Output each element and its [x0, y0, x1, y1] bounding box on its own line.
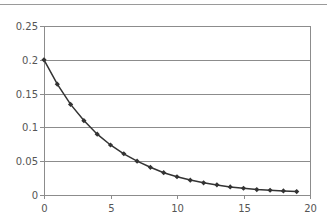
y-tick-label: 0.15	[16, 89, 38, 100]
data-point-marker	[281, 188, 286, 193]
data-point-marker	[254, 187, 259, 192]
x-tick-label: 5	[108, 203, 114, 214]
data-point-marker	[294, 189, 299, 194]
series-line	[44, 60, 297, 192]
gridlines	[44, 27, 310, 162]
data-point-marker	[148, 165, 153, 170]
axes	[44, 26, 311, 196]
y-tick-label: 0.05	[16, 156, 38, 167]
data-point-marker	[228, 184, 233, 189]
x-tick-label: 10	[171, 203, 184, 214]
x-axis-tick-labels: 05101520	[41, 195, 317, 214]
x-tick-label: 20	[304, 203, 317, 214]
data-point-marker	[214, 182, 219, 187]
data-point-marker	[188, 178, 193, 183]
line-chart: 00.050.10.150.20.25 05101520	[0, 0, 327, 222]
y-tick-label: 0.1	[22, 122, 38, 133]
x-tick-label: 0	[41, 203, 47, 214]
y-tick-label: 0.25	[16, 21, 38, 32]
data-point-marker	[241, 186, 246, 191]
x-tick-label: 15	[238, 203, 251, 214]
data-series	[41, 57, 299, 194]
data-point-marker	[268, 188, 273, 193]
y-tick-label: 0	[32, 190, 38, 201]
data-point-marker	[161, 170, 166, 175]
data-point-marker	[201, 180, 206, 185]
y-axis-tick-labels: 00.050.10.150.20.25	[16, 21, 44, 201]
data-point-marker	[174, 174, 179, 179]
y-tick-label: 0.2	[22, 55, 38, 66]
